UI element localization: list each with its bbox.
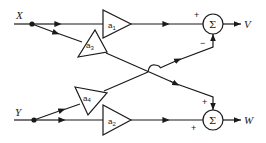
sum-top-minus-sign: − <box>200 38 205 48</box>
summer-bottom-sigma: Σ <box>209 115 216 126</box>
x-to-a3-wire <box>54 32 82 42</box>
crossing-hop <box>148 65 160 72</box>
y-to-a4-arrow <box>34 110 62 120</box>
output-w-label: W <box>244 114 254 126</box>
input-y-label: Y <box>15 106 23 118</box>
a4-to-sum-wire-1 <box>104 72 148 91</box>
x-to-a3-arrow <box>32 24 56 33</box>
block-diagram: X a1 + a3 + Y a4 − a2 + Σ V <box>0 0 266 143</box>
summer-top-sigma: Σ <box>209 19 216 30</box>
gain-a4-block <box>75 87 107 115</box>
a4-to-sum-arrow <box>160 60 178 68</box>
y-to-a4-wire <box>60 104 80 111</box>
sum-bottom-plus-sign-left: + <box>191 123 196 133</box>
sum-bottom-plus-sign-top: + <box>202 97 207 107</box>
output-v-label: V <box>244 18 252 30</box>
input-x-label: X <box>15 9 24 21</box>
sum-top-plus-sign: + <box>194 10 199 20</box>
a4-to-sum-wire-2 <box>176 34 213 61</box>
